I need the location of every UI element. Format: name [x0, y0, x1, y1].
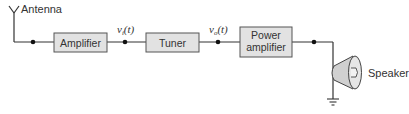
radio-block-diagram: Antenna Amplifier vi(t) Tuner vo(t) Powe… [0, 0, 409, 114]
speaker-label: Speaker [368, 67, 409, 79]
power-amplifier-block: Power amplifier [240, 27, 292, 57]
antenna-icon [9, 6, 19, 42]
tuner-block: Tuner [146, 33, 199, 52]
junction-dot [31, 40, 36, 45]
amplifier-block: Amplifier [54, 33, 107, 52]
antenna-label: Antenna [21, 3, 63, 15]
amplifier-label: Amplifier [60, 37, 101, 49]
signal-vi-label: vi(t) [117, 23, 135, 37]
power-amplifier-label-line1: Power [251, 29, 281, 41]
junction-dot-vo [216, 40, 221, 45]
junction-dot-output [312, 40, 317, 45]
junction-dot-vi [123, 40, 128, 45]
power-amplifier-label-line2: amplifier [246, 41, 286, 53]
ground-icon [327, 99, 339, 105]
speaker-icon [332, 56, 362, 89]
signal-vo-label: vo(t) [209, 23, 228, 37]
tuner-label: Tuner [159, 37, 187, 49]
